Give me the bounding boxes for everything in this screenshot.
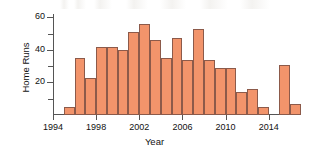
- bar-2005: [172, 38, 183, 115]
- bar-2000: [118, 50, 129, 115]
- bar-2008: [204, 60, 215, 115]
- bar-2006: [182, 60, 193, 115]
- bar-2015: [279, 65, 290, 116]
- bar-2016: [290, 104, 301, 115]
- x-tick-2002: [139, 115, 140, 120]
- x-tick-label-1998: 1998: [81, 122, 111, 132]
- bar-1996: [75, 58, 86, 115]
- bar-1998: [96, 47, 107, 115]
- x-axis-title: Year: [0, 136, 309, 147]
- bar-2002: [139, 24, 150, 115]
- bar-1997: [85, 78, 96, 115]
- bar-2003: [150, 40, 161, 115]
- bar-1999: [107, 47, 118, 115]
- x-tick-label-2010: 2010: [211, 122, 241, 132]
- x-tick-label-1994: 1994: [38, 122, 68, 132]
- x-tick-2010: [226, 115, 227, 120]
- bar-2004: [161, 58, 172, 115]
- x-tick-2014: [269, 115, 270, 120]
- bar-2007: [193, 29, 204, 115]
- y-axis-title-container: Home Runs: [24, 14, 36, 114]
- bar-2009: [215, 68, 226, 115]
- scan-artifact: [60, 0, 290, 9]
- bar-2013: [258, 107, 269, 115]
- x-tick-1994: [53, 115, 54, 120]
- bar-2012: [247, 89, 258, 115]
- y-tick-label-40: 40: [26, 45, 45, 54]
- bar-1995: [64, 107, 75, 115]
- x-tick-label-2014: 2014: [254, 122, 284, 132]
- bar-2011: [236, 92, 247, 115]
- x-tick-label-2002: 2002: [124, 122, 154, 132]
- y-tick-label-20: 20: [26, 77, 45, 86]
- y-tick-label-60: 60: [26, 12, 45, 21]
- bar-2001: [128, 32, 139, 115]
- home-runs-bar-chart: Home Runs 204060 19941998200220062010201…: [0, 0, 309, 155]
- bars-layer: [53, 14, 301, 115]
- x-tick-label-2006: 2006: [167, 122, 197, 132]
- x-tick-1998: [96, 115, 97, 120]
- x-tick-2006: [182, 115, 183, 120]
- bar-2010: [226, 68, 237, 115]
